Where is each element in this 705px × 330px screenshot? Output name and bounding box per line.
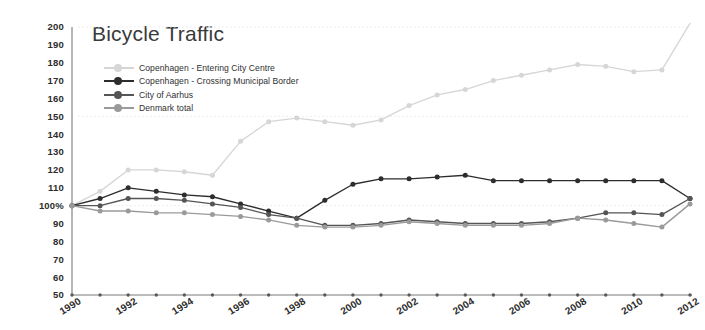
data-point xyxy=(210,212,215,217)
data-point xyxy=(379,223,384,228)
data-point xyxy=(294,223,299,228)
data-point xyxy=(238,205,243,210)
data-point xyxy=(98,196,103,201)
data-point xyxy=(182,198,187,203)
data-point xyxy=(154,189,159,194)
data-point xyxy=(379,176,384,181)
data-point xyxy=(98,189,103,194)
data-point xyxy=(463,87,468,92)
data-point xyxy=(182,210,187,215)
data-point xyxy=(547,178,552,183)
y-tick-label: 170 xyxy=(48,75,64,86)
data-point xyxy=(126,196,131,201)
x-tick-mark xyxy=(211,293,214,296)
x-tick-label: 2008 xyxy=(563,295,589,317)
data-point xyxy=(350,123,355,128)
data-point xyxy=(294,216,299,221)
data-point xyxy=(519,223,524,228)
data-point xyxy=(154,196,159,201)
x-tick-mark xyxy=(70,293,73,296)
series-line-1 xyxy=(72,175,690,218)
data-point xyxy=(98,209,103,214)
x-tick-label: 2004 xyxy=(451,295,477,317)
bicycle-traffic-chart: Bicycle Traffic Copenhagen - Entering Ci… xyxy=(0,0,705,330)
data-point xyxy=(519,73,524,78)
data-point xyxy=(379,117,384,122)
data-point xyxy=(575,216,580,221)
data-point xyxy=(266,119,271,124)
data-point xyxy=(322,119,327,124)
data-point xyxy=(407,103,412,108)
x-tick-mark xyxy=(604,293,607,296)
y-tick-label: 150 xyxy=(48,111,64,122)
y-tick-label: 50 xyxy=(53,289,64,300)
data-point xyxy=(407,176,412,181)
data-point xyxy=(238,139,243,144)
data-point xyxy=(463,223,468,228)
data-point xyxy=(491,178,496,183)
data-point xyxy=(463,173,468,178)
y-tick-label: 200 xyxy=(48,21,64,32)
data-point xyxy=(491,78,496,83)
x-tick-label: 1996 xyxy=(226,295,252,317)
data-point xyxy=(603,217,608,222)
data-point xyxy=(266,217,271,222)
x-tick-mark xyxy=(351,293,354,296)
y-tick-label: 180 xyxy=(48,57,64,68)
series-layer xyxy=(70,23,693,229)
y-tick-label: 110 xyxy=(48,182,64,193)
data-point xyxy=(491,223,496,228)
x-axis: 1990199219941996199820002002200420062008… xyxy=(57,293,701,317)
x-tick-mark xyxy=(407,293,410,296)
data-point xyxy=(631,69,636,74)
data-point xyxy=(154,167,159,172)
x-tick-label: 2002 xyxy=(395,295,421,317)
data-point xyxy=(435,221,440,226)
data-point xyxy=(519,178,524,183)
data-point xyxy=(631,210,636,215)
data-point xyxy=(688,196,693,201)
data-point xyxy=(407,219,412,224)
data-point xyxy=(126,167,131,172)
data-point xyxy=(435,175,440,180)
data-point xyxy=(126,209,131,214)
x-tick-mark xyxy=(520,293,523,296)
data-point xyxy=(238,214,243,219)
y-tick-label: 100% xyxy=(39,200,64,211)
x-tick-mark xyxy=(464,293,467,296)
x-tick-mark xyxy=(183,293,186,296)
x-tick-mark xyxy=(492,293,495,296)
data-point xyxy=(631,221,636,226)
x-tick-mark xyxy=(98,293,101,296)
x-tick-mark xyxy=(239,293,242,296)
data-point xyxy=(603,178,608,183)
y-tick-label: 90 xyxy=(53,218,64,229)
x-tick-mark xyxy=(435,293,438,296)
y-tick-label: 190 xyxy=(48,39,64,50)
data-point xyxy=(603,210,608,215)
data-point xyxy=(659,178,664,183)
data-point xyxy=(70,203,75,208)
x-tick-mark xyxy=(576,293,579,296)
data-point xyxy=(575,62,580,67)
x-tick-label: 1994 xyxy=(170,295,196,317)
x-tick-mark xyxy=(632,293,635,296)
data-point xyxy=(688,201,693,206)
x-tick-mark xyxy=(323,293,326,296)
x-tick-label: 2000 xyxy=(338,295,364,317)
data-point xyxy=(182,192,187,197)
data-point xyxy=(350,225,355,230)
data-point xyxy=(659,212,664,217)
data-point xyxy=(547,67,552,72)
y-tick-label: 130 xyxy=(48,146,64,157)
y-tick-label: 70 xyxy=(53,254,64,265)
data-point xyxy=(210,194,215,199)
data-point xyxy=(98,203,103,208)
data-point xyxy=(603,64,608,69)
x-tick-mark xyxy=(688,293,691,296)
data-point xyxy=(547,221,552,226)
x-tick-label: 2012 xyxy=(675,295,701,317)
data-point xyxy=(182,169,187,174)
data-point xyxy=(435,92,440,97)
x-tick-mark xyxy=(295,293,298,296)
